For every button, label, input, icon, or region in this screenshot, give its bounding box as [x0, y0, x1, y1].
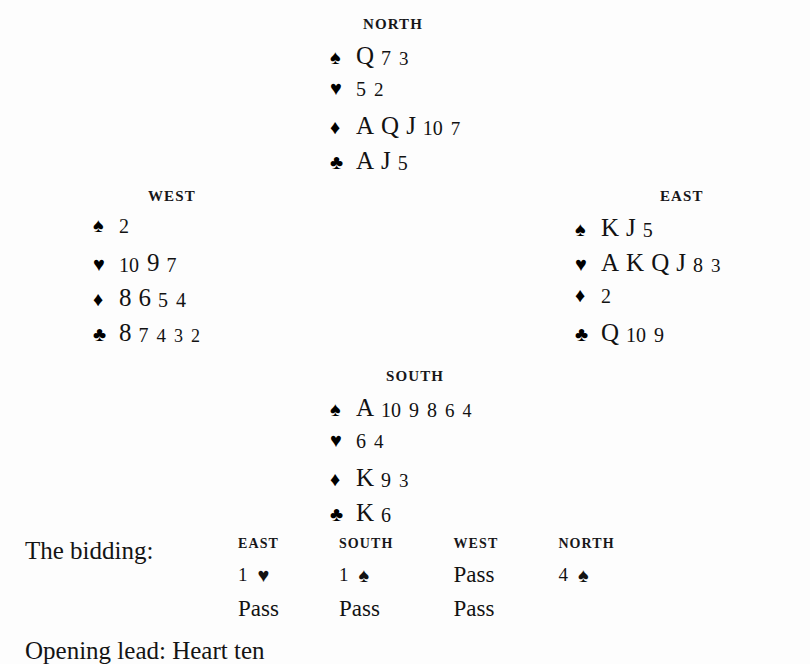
club-icon: ♣: [330, 504, 356, 524]
card-rank: 8: [119, 285, 132, 310]
bid-cell: 1♠: [339, 561, 454, 595]
bidding-column-east: EAST: [238, 536, 339, 561]
bid-level: 1: [339, 564, 349, 585]
east-club-row: ♣ Q 10 9: [575, 320, 728, 355]
card-rank: 10: [119, 255, 139, 275]
card-rank: Q: [601, 320, 619, 345]
hand-south: SOUTH ♠ A 10 9 8 6 4 ♥ 6 4 ♦ K 9 3: [330, 368, 480, 535]
hand-north: NORTH ♠ Q 7 3 ♥ 5 2 ♦ A Q J 10 7: [330, 16, 468, 183]
card-rank: 8: [427, 400, 437, 420]
card-rank: 6: [356, 431, 366, 451]
bidding-row: 1♥ 1♠ Pass 4♠: [238, 561, 675, 595]
bidding-table: EAST SOUTH WEST NORTH 1♥ 1♠ Pass 4♠: [238, 536, 675, 629]
east-diamond-ranks: 2: [601, 285, 619, 305]
card-rank: 2: [191, 327, 200, 345]
east-heart-row: ♥ A K Q J 8 3: [575, 250, 728, 285]
card-rank: 10: [381, 400, 401, 420]
card-rank: 6: [445, 401, 455, 420]
diamond-icon: ♦: [330, 117, 356, 137]
south-diamond-ranks: K 9 3: [356, 465, 417, 490]
spade-icon: ♠: [330, 47, 356, 67]
card-rank: Q: [651, 250, 669, 275]
card-rank: 7: [139, 325, 149, 345]
card-rank: J: [626, 215, 636, 240]
south-diamond-row: ♦ K 9 3: [330, 465, 480, 500]
bid-cell: Pass: [454, 561, 559, 595]
south-spade-ranks: A 10 9 8 6 4: [356, 395, 480, 420]
card-rank: 4: [463, 402, 472, 420]
bid-cell: Pass: [454, 595, 559, 629]
card-rank: Q: [356, 43, 374, 68]
north-diamond-ranks: A Q J 10 7: [356, 113, 468, 138]
spade-icon: ♠: [578, 564, 589, 586]
card-rank: 5: [158, 290, 168, 310]
west-club-row: ♣ 8 7 4 3 2: [93, 320, 208, 355]
north-heart-row: ♥ 5 2: [330, 78, 468, 113]
club-icon: ♣: [93, 324, 119, 344]
card-rank: 6: [139, 285, 152, 310]
bid-cell: [558, 595, 674, 629]
bid-cell: 1♥: [238, 561, 339, 595]
heart-icon: ♥: [93, 254, 119, 274]
east-spade-row: ♠ K J 5: [575, 215, 728, 250]
south-heart-ranks: 6 4: [356, 430, 392, 450]
north-spade-row: ♠ Q 7 3: [330, 43, 468, 78]
north-heart-ranks: 5 2: [356, 78, 392, 98]
card-rank: 10: [626, 325, 646, 345]
card-rank: J: [676, 250, 686, 275]
card-rank: A: [356, 113, 374, 138]
card-rank: 8: [693, 255, 703, 275]
card-rank: 2: [119, 216, 129, 236]
hand-west: WEST ♠ 2 ♥ 10 9 7 ♦ 8 6 5 4 ♣: [93, 188, 208, 355]
bid-level: 4: [558, 564, 568, 585]
heart-icon: ♥: [575, 254, 601, 274]
bid-cell: Pass: [238, 595, 339, 629]
west-heart-ranks: 10 9 7: [119, 250, 185, 275]
hand-east: EAST ♠ K J 5 ♥ A K Q J 8 3 ♦ 2: [575, 188, 728, 355]
bid-cell: 4♠: [558, 561, 674, 595]
diamond-icon: ♦: [330, 469, 356, 489]
bidding-header-row: EAST SOUTH WEST NORTH: [238, 536, 675, 561]
bidding-caption: The bidding:: [25, 538, 153, 563]
north-spade-ranks: Q 7 3: [356, 43, 417, 68]
spade-icon: ♠: [330, 399, 356, 419]
club-icon: ♣: [330, 152, 356, 172]
diamond-icon: ♦: [575, 285, 601, 305]
south-heart-row: ♥ 6 4: [330, 430, 480, 465]
east-spade-ranks: K J 5: [601, 215, 661, 240]
card-rank: 3: [174, 327, 183, 345]
card-rank: 7: [381, 48, 391, 68]
card-rank: 9: [654, 325, 664, 345]
opening-lead-line: Opening lead: Heart ten: [25, 638, 265, 663]
card-rank: 10: [423, 118, 443, 138]
spade-icon: ♠: [358, 564, 369, 586]
card-rank: J: [406, 113, 416, 138]
north-club-ranks: A J 5: [356, 148, 416, 173]
south-spade-row: ♠ A 10 9 8 6 4: [330, 395, 480, 430]
east-club-ranks: Q 10 9: [601, 320, 672, 345]
hand-label-east: EAST: [660, 188, 728, 205]
card-rank: A: [356, 148, 374, 173]
heart-icon: ♥: [330, 430, 356, 450]
card-rank: 7: [451, 119, 461, 138]
north-club-row: ♣ A J 5: [330, 148, 468, 183]
card-rank: 7: [167, 255, 177, 275]
card-rank: 5: [398, 153, 408, 173]
card-rank: 2: [601, 286, 611, 306]
card-rank: K: [601, 215, 619, 240]
spade-icon: ♠: [93, 215, 119, 235]
bidding-column-west: WEST: [454, 536, 559, 561]
bid-level: 1: [238, 564, 248, 585]
west-club-ranks: 8 7 4 3 2: [119, 320, 208, 345]
card-rank: J: [381, 148, 391, 173]
card-rank: 2: [374, 80, 384, 99]
card-rank: 4: [176, 290, 186, 310]
heart-icon: ♥: [258, 564, 270, 586]
bidding-column-north: NORTH: [558, 536, 674, 561]
card-rank: 3: [711, 256, 721, 275]
hand-label-north: NORTH: [363, 16, 468, 33]
heart-icon: ♥: [330, 78, 356, 98]
card-rank: 9: [409, 400, 419, 420]
south-club-row: ♣ K 6: [330, 500, 480, 535]
